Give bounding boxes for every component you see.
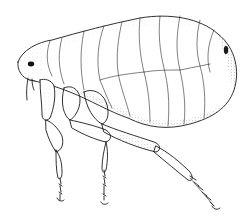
eye (28, 62, 34, 67)
palp-left (27, 78, 28, 100)
front-leg (40, 79, 64, 201)
flea-drawing (0, 0, 250, 222)
flea-illustration (0, 0, 250, 222)
